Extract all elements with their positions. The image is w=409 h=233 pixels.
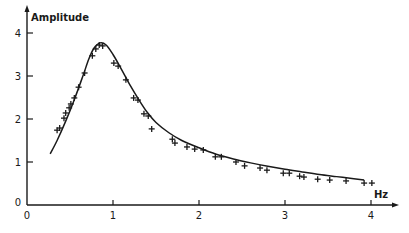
x-tick-label: 2 [196,210,202,221]
plus-marker-icon [327,177,333,183]
x-tick-label: 3 [282,210,288,221]
data-points [54,42,375,186]
plus-marker-icon [301,174,307,180]
plus-marker-icon [315,176,321,182]
plus-marker-icon [297,173,303,179]
y-tick-label: 3 [15,71,21,82]
fit-line [50,43,364,180]
y-tick-label: 0 [15,197,21,208]
y-tick-label: 4 [15,28,21,39]
plus-marker-icon [200,147,206,153]
y-axis-arrow-icon [25,5,30,12]
chart-canvas: 0123401234 Amplitude Hz [0,0,409,233]
x-axis-label: Hz [374,189,388,200]
fitted-curve [50,43,364,180]
plus-marker-icon [149,126,155,132]
x-tick-label: 0 [24,210,30,221]
plus-marker-icon [361,180,367,186]
y-axis-label: Amplitude [31,12,89,23]
plus-marker-icon [184,144,190,150]
plus-marker-icon [264,167,270,173]
amplitude-frequency-chart: 0123401234 Amplitude Hz [0,0,409,233]
plus-marker-icon [76,84,82,90]
plus-marker-icon [280,170,286,176]
plus-marker-icon [111,60,117,66]
plus-marker-icon [242,163,248,169]
plus-marker-icon [93,46,99,52]
x-axis-arrow-icon [392,203,399,208]
x-tick-label: 4 [368,210,374,221]
y-tick-label: 2 [15,114,21,125]
x-tick-label: 1 [110,210,116,221]
plus-marker-icon [369,180,375,186]
plus-marker-icon [286,170,292,176]
y-tick-label: 1 [15,157,21,168]
axes: 0123401234 [15,5,399,221]
